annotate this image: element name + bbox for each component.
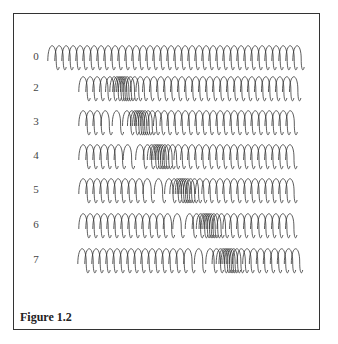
row-label: 4 [30,149,42,161]
row-label: 7 [30,253,42,265]
coil-row [79,77,301,101]
coil-row [79,214,297,238]
row-label: 5 [30,183,42,195]
slinky-wave-diagram [0,0,338,344]
row-label: 0 [30,50,42,62]
figure-caption: Figure 1.2 [20,310,72,325]
coil-row [79,145,297,169]
coil-row [79,111,298,135]
coil-row [78,249,303,273]
coil-row [79,179,297,203]
coil-row [48,46,304,70]
row-label: 2 [30,81,42,93]
row-label: 6 [30,218,42,230]
row-label: 3 [30,115,42,127]
